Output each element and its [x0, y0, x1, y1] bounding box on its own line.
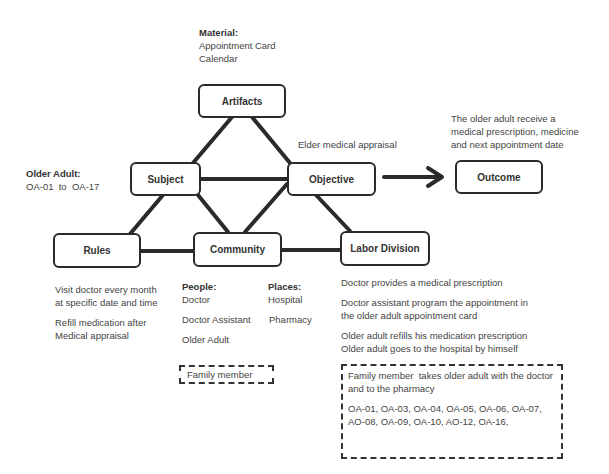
outcome-label: Outcome — [477, 172, 520, 183]
labor-item: Doctor assistant program the appointment… — [341, 296, 528, 309]
material-item: Calendar — [199, 52, 276, 65]
places-label: Places: — [268, 280, 312, 293]
objective-note: Elder medical appraisal — [298, 138, 397, 151]
older-adult-label: Older Adult: — [26, 167, 99, 180]
labor-item: Older adult refills his medication presc… — [341, 329, 528, 342]
objective-node: Objective — [287, 162, 376, 196]
labor-division-node: Labor Division — [340, 231, 430, 266]
family-labor-line: and to the pharmacy — [348, 382, 553, 395]
material-label: Material: — [199, 26, 276, 39]
artifacts-label: Artifacts — [222, 96, 263, 107]
people-label: People: — [182, 280, 251, 293]
outcome-note-line: medical prescription, medicine — [451, 125, 579, 138]
people-item: Doctor — [182, 293, 251, 306]
community-places: Places: Hospital Pharmacy — [268, 280, 312, 326]
family-member-labor-box: Family member takes older adult with the… — [341, 364, 563, 459]
labor-division-label: Labor Division — [350, 243, 419, 254]
family-member-box: Family member — [179, 365, 274, 384]
labor-division-note: Doctor provides a medical prescription D… — [341, 276, 528, 355]
subject-node: Subject — [130, 162, 201, 196]
rule-line: Medical appraisal — [55, 329, 157, 342]
outcome-node: Outcome — [455, 160, 543, 194]
rules-node: Rules — [53, 233, 141, 268]
community-node: Community — [193, 232, 282, 267]
outcome-note-line: and next appointment date — [451, 138, 579, 151]
community-label: Community — [210, 244, 265, 255]
people-item: Older Adult — [182, 333, 251, 346]
places-item: Hospital — [268, 293, 312, 306]
artifacts-node: Artifacts — [198, 84, 286, 118]
rule-line: at specific date and time — [55, 296, 157, 309]
rule-line: Visit doctor every month — [55, 283, 157, 296]
family-labor-line: Family member takes older adult with the… — [348, 369, 553, 382]
rules-label: Rules — [83, 245, 110, 256]
objective-label: Objective — [309, 174, 354, 185]
rule-line: Refill medication after — [55, 316, 157, 329]
participant-ids-line: AO-08, OA-09, OA-10, AO-12, OA-16, — [348, 415, 553, 428]
community-people: People: Doctor Doctor Assistant Older Ad… — [182, 280, 251, 346]
family-member-label: Family member — [187, 368, 252, 381]
artifacts-note: Material: Appointment Card Calendar — [199, 26, 276, 65]
material-item: Appointment Card — [199, 39, 276, 52]
labor-item: Older adult goes to the hospital by hims… — [341, 342, 528, 355]
labor-item: the older adult appointment card — [341, 309, 528, 322]
family-member-labor-text: Family member takes older adult with the… — [348, 369, 553, 428]
places-item: Pharmacy — [268, 313, 312, 326]
older-adult-range: OA-01 to OA-17 — [26, 180, 99, 193]
outcome-note-line: The older adult receive a — [451, 112, 579, 125]
rules-note: Visit doctor every month at specific dat… — [55, 283, 157, 342]
subject-note: Older Adult: OA-01 to OA-17 — [26, 167, 99, 193]
outcome-note: The older adult receive a medical prescr… — [451, 112, 579, 151]
people-item: Doctor Assistant — [182, 313, 251, 326]
labor-item: Doctor provides a medical prescription — [341, 276, 528, 289]
participant-ids-line: OA-01, OA-03, OA-04, OA-05, OA-06, OA-07… — [348, 402, 553, 415]
subject-label: Subject — [147, 174, 183, 185]
